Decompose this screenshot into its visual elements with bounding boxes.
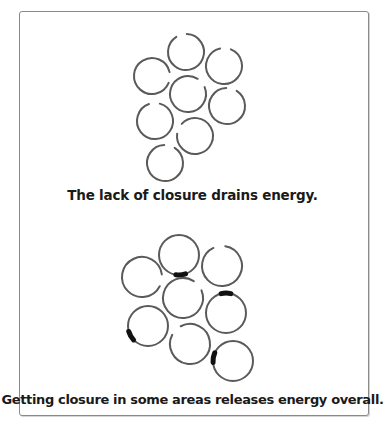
- closed-ring-icon: [206, 293, 246, 333]
- open-ring-icon: [122, 257, 162, 297]
- closed-ring-icon: [213, 341, 253, 381]
- rings-canvas: [0, 0, 385, 426]
- open-ring-icon: [206, 48, 242, 84]
- closure-mark-icon: [221, 293, 231, 294]
- open-ring-icon: [202, 246, 242, 286]
- closed-ring-icon: [159, 235, 199, 275]
- open-ring-icon: [168, 34, 204, 70]
- closure-mark-icon: [176, 274, 186, 275]
- open-ring-icon: [209, 88, 245, 124]
- open-ring-icon: [163, 278, 203, 318]
- closed-ring-icon: [128, 306, 168, 346]
- closure-mark-icon: [213, 353, 215, 363]
- open-ring-icon: [147, 145, 183, 181]
- open-ring-icon: [177, 118, 213, 154]
- mixed-rings-group: [122, 235, 253, 381]
- open-ring-icon: [137, 104, 173, 139]
- closure-mark-icon: [129, 332, 134, 340]
- caption-lack-of-closure: The lack of closure drains energy.: [0, 187, 385, 203]
- open-ring-icon: [170, 76, 206, 112]
- open-rings-group: [134, 34, 245, 181]
- caption-getting-closure: Getting closure in some areas releases e…: [0, 392, 385, 407]
- open-ring-icon: [134, 58, 170, 94]
- open-ring-icon: [170, 324, 210, 364]
